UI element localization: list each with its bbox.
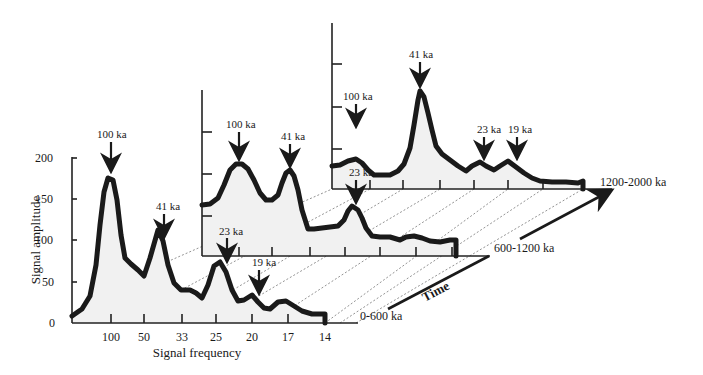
back-peak-23ka: 23 ka: [477, 123, 501, 157]
svg-text:200: 200: [35, 151, 53, 165]
peak-label: 19 ka: [252, 256, 276, 268]
panel-label-600-1200ka: 600-1200 ka: [494, 241, 555, 255]
peak-label: 41 ka: [281, 130, 305, 142]
spectral-chart-canvas: 1200-2000 ka 100 ka 41 ka 23 ka 19 ka: [0, 0, 703, 375]
svg-text:100: 100: [102, 330, 120, 344]
peak-label: 23 ka: [349, 166, 373, 178]
peak-label: 23 ka: [477, 123, 501, 135]
back-peak-100ka: 100 ka: [343, 90, 373, 125]
svg-text:17: 17: [282, 330, 294, 344]
back-peak-41ka: 41 ka: [409, 48, 433, 85]
peak-label: 100 ka: [97, 128, 127, 140]
front-x-tick-labels: 100 50 33 25 20 17 14: [102, 330, 331, 344]
peak-label: 100 ka: [226, 118, 256, 130]
peak-label: 100 ka: [343, 90, 373, 102]
front-peak-19ka: 19 ka: [252, 256, 276, 292]
middle-peak-100ka: 100 ka: [226, 118, 256, 158]
time-axis-label: Time: [419, 278, 452, 305]
panel-label-0-600ka: 0-600 ka: [360, 309, 403, 323]
middle-peak-41ka: 41 ka: [281, 130, 305, 165]
panel-label-1200-2000ka: 1200-2000 ka: [600, 175, 667, 189]
svg-text:25: 25: [210, 330, 222, 344]
y-axis-title: Signal amplitude: [28, 196, 43, 285]
back-peak-19ka: 19 ka: [508, 123, 532, 157]
svg-text:33: 33: [176, 330, 188, 344]
peak-label: 19 ka: [508, 123, 532, 135]
front-peak-100ka: 100 ka: [97, 128, 127, 170]
back-y-ticks: [332, 64, 342, 149]
svg-text:50: 50: [42, 275, 54, 289]
x-axis-title: Signal frequency: [153, 345, 242, 360]
peak-label: 23 ka: [219, 225, 243, 237]
svg-text:0: 0: [49, 316, 55, 330]
panel-1200-2000ka: 1200-2000 ka 100 ka 41 ka 23 ka 19 ka: [332, 23, 667, 189]
peak-label: 41 ka: [156, 200, 180, 212]
svg-text:50: 50: [138, 330, 150, 344]
svg-text:14: 14: [319, 330, 331, 344]
peak-label: 41 ka: [409, 48, 433, 60]
svg-text:20: 20: [246, 330, 258, 344]
